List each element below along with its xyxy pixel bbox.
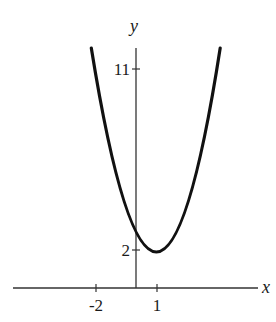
y-tick-label-2: 2 — [122, 241, 131, 260]
parabola-curve — [91, 48, 220, 252]
parabola-chart: y x -2 1 2 11 — [0, 0, 276, 322]
y-axis-label: y — [128, 16, 138, 36]
x-tick-label-neg2: -2 — [89, 296, 103, 315]
y-tick-label-11: 11 — [114, 60, 130, 79]
x-tick-label-1: 1 — [153, 296, 162, 315]
x-axis-label: x — [261, 277, 270, 297]
